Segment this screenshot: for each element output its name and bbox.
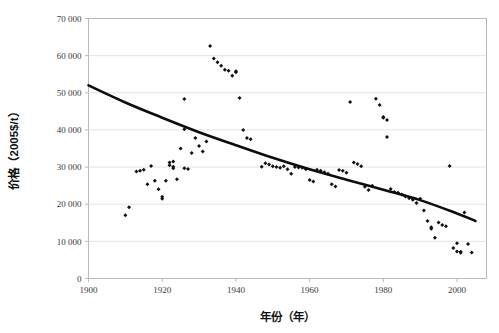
y-tick-label: 0 xyxy=(77,274,82,284)
x-tick-label: 1960 xyxy=(301,285,320,295)
x-tick-label: 2000 xyxy=(448,285,467,295)
x-tick-label: 1980 xyxy=(374,285,393,295)
x-tick-label: 1920 xyxy=(153,285,172,295)
y-tick-label: 50 000 xyxy=(57,88,82,98)
y-axis-title: 价格（2005$/t） xyxy=(7,106,20,189)
y-tick-label: 10 000 xyxy=(57,237,82,247)
price-trend-chart: 010 00020 00030 00040 00050 00060 00070 … xyxy=(0,0,499,333)
y-tick-label: 30 000 xyxy=(57,162,82,172)
x-tick-label: 1940 xyxy=(227,285,246,295)
y-tick-label: 40 000 xyxy=(57,125,82,135)
y-tick-label: 70 000 xyxy=(57,14,82,24)
y-tick-label: 60 000 xyxy=(57,51,82,61)
plot-area-frame xyxy=(89,19,487,279)
y-tick-label: 20 000 xyxy=(57,199,82,209)
chart-canvas: 010 00020 00030 00040 00050 00060 00070 … xyxy=(0,0,499,333)
x-axis-title: 年份（年） xyxy=(260,310,315,323)
x-tick-label: 1900 xyxy=(80,285,99,295)
